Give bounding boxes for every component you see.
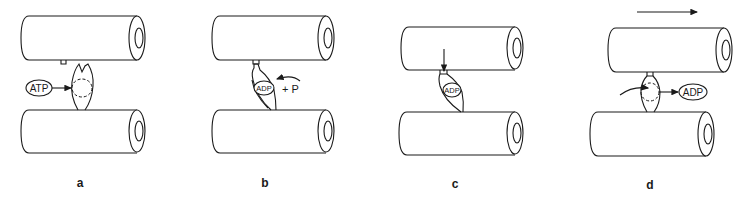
cross-bridge-diagram: ATP a ADP + P b <box>0 0 750 203</box>
bottom-filament <box>399 112 523 155</box>
curved-arrow-icon <box>277 77 300 81</box>
panel-label-b: b <box>261 176 268 190</box>
atp-label: ATP <box>30 83 49 94</box>
myosin-head <box>72 64 94 110</box>
panel-d: ADP d <box>590 12 732 192</box>
top-filament <box>401 27 523 70</box>
adp-label: ADP <box>683 87 704 98</box>
panel-a: ATP a <box>21 16 145 190</box>
phosphate-label: + P <box>282 83 299 95</box>
panel-label-a: a <box>77 176 84 190</box>
adp-label: ADP <box>444 86 459 95</box>
panel-label-c: c <box>452 177 459 191</box>
myosin-head <box>641 76 660 112</box>
top-filament <box>21 16 145 64</box>
panel-b: ADP + P b <box>212 16 334 190</box>
bottom-filament <box>590 112 714 156</box>
myosin-head: ADP <box>252 64 276 110</box>
adp-molecule: ADP <box>679 84 707 100</box>
top-filament <box>608 28 732 76</box>
panel-c: ADP c <box>399 27 523 191</box>
curved-arrow-icon <box>620 88 648 95</box>
panel-label-d: d <box>646 178 653 192</box>
bottom-filament <box>21 110 145 153</box>
bottom-filament <box>212 110 334 153</box>
top-filament <box>212 16 334 64</box>
atp-molecule: ATP <box>26 80 71 96</box>
adp-label: ADP <box>256 84 271 93</box>
myosin-head: ADP <box>439 70 463 112</box>
